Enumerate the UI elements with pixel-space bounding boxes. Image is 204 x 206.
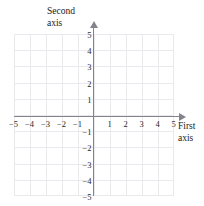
grid-right-edge (173, 34, 174, 196)
vertical-axis-title: Second axis (47, 6, 75, 29)
y-tick-label: −2 (78, 144, 92, 153)
x-tick-label: 4 (151, 120, 165, 129)
y-tick-label: 2 (78, 80, 92, 89)
y-tick-label: 5 (78, 31, 92, 40)
x-tick-label: 1 (103, 120, 117, 129)
vertical-axis-line (93, 27, 94, 196)
y-tick-label: −5 (78, 193, 92, 202)
x-tick-label: −2 (55, 120, 69, 129)
horizontal-axis-line (14, 116, 181, 117)
vertical-axis-title-line1: Second (47, 6, 75, 18)
x-tick-label: −3 (39, 120, 53, 129)
x-tick-label: −4 (23, 120, 37, 129)
vertical-axis-title-line2: axis (47, 18, 75, 30)
arrow-up-icon (90, 21, 98, 28)
horizontal-axis-title-line2: axis (178, 133, 195, 145)
horizontal-axis-title: First axis (178, 121, 195, 144)
y-tick-label: 3 (78, 63, 92, 72)
x-tick-label: 2 (119, 120, 133, 129)
y-tick-label: −4 (78, 177, 92, 186)
horizontal-axis-title-line1: First (178, 121, 195, 133)
y-tick-label: −1 (78, 128, 92, 137)
coordinate-plane: Second axis First axis −5−4−3−2−112345 5… (0, 0, 204, 206)
y-tick-label: 1 (78, 96, 92, 105)
x-tick-label: −5 (7, 120, 21, 129)
y-tick-label: −3 (78, 161, 92, 170)
x-tick-label: 5 (167, 120, 181, 129)
x-tick-label: 3 (135, 120, 149, 129)
y-tick-label: 4 (78, 47, 92, 56)
